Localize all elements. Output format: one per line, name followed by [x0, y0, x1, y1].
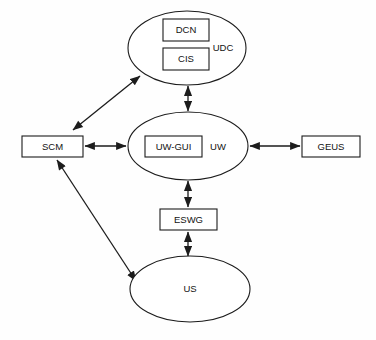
node-eswg[interactable]: ESWG [160, 209, 217, 230]
node-label-cis: CIS [178, 53, 194, 64]
node-label-dcn: DCN [176, 24, 197, 35]
diagram-canvas: UDCDCNCISUWUW-GUISCMGEUSESWGUS [0, 0, 376, 340]
node-label-udc: UDC [213, 42, 234, 53]
nodes-group: UDCDCNCISUWUW-GUISCMGEUSESWGUS [22, 11, 360, 322]
node-dcn[interactable]: DCN [163, 19, 209, 41]
node-label-uw: UW [210, 141, 226, 152]
node-label-scm: SCM [42, 141, 63, 152]
node-label-eswg: ESWG [174, 214, 203, 225]
edge-scm-udc [73, 76, 140, 130]
node-us[interactable]: US [130, 256, 250, 322]
node-geus[interactable]: GEUS [302, 136, 360, 157]
node-scm[interactable]: SCM [22, 136, 83, 157]
node-uw-gui[interactable]: UW-GUI [145, 136, 202, 157]
node-label-us: US [183, 283, 196, 294]
node-cis[interactable]: CIS [163, 48, 209, 70]
node-label-uw-gui: UW-GUI [156, 141, 192, 152]
node-label-geus: GEUS [318, 141, 345, 152]
diagram-svg: UDCDCNCISUWUW-GUISCMGEUSESWGUS [0, 0, 376, 340]
edge-scm-us [57, 160, 136, 281]
